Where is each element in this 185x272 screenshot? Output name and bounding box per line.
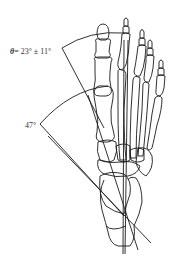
fourth-toe — [138, 40, 154, 156]
axis-line-c — [123, 40, 124, 254]
theta-angle-label: θ= 23° ± 11° — [10, 48, 51, 56]
theta-arc — [62, 33, 124, 48]
third-toe — [130, 30, 146, 159]
great-toe — [94, 24, 115, 142]
foot-skeleton-drawing — [0, 0, 185, 272]
angle-47-label: 47° — [25, 122, 36, 130]
theta-value: = 23° ± 11° — [14, 47, 51, 56]
fifth-toe — [147, 60, 165, 150]
tarsal-bones — [97, 140, 152, 246]
foot-skeleton-diagram: θ= 23° ± 11° 47° — [0, 0, 185, 272]
